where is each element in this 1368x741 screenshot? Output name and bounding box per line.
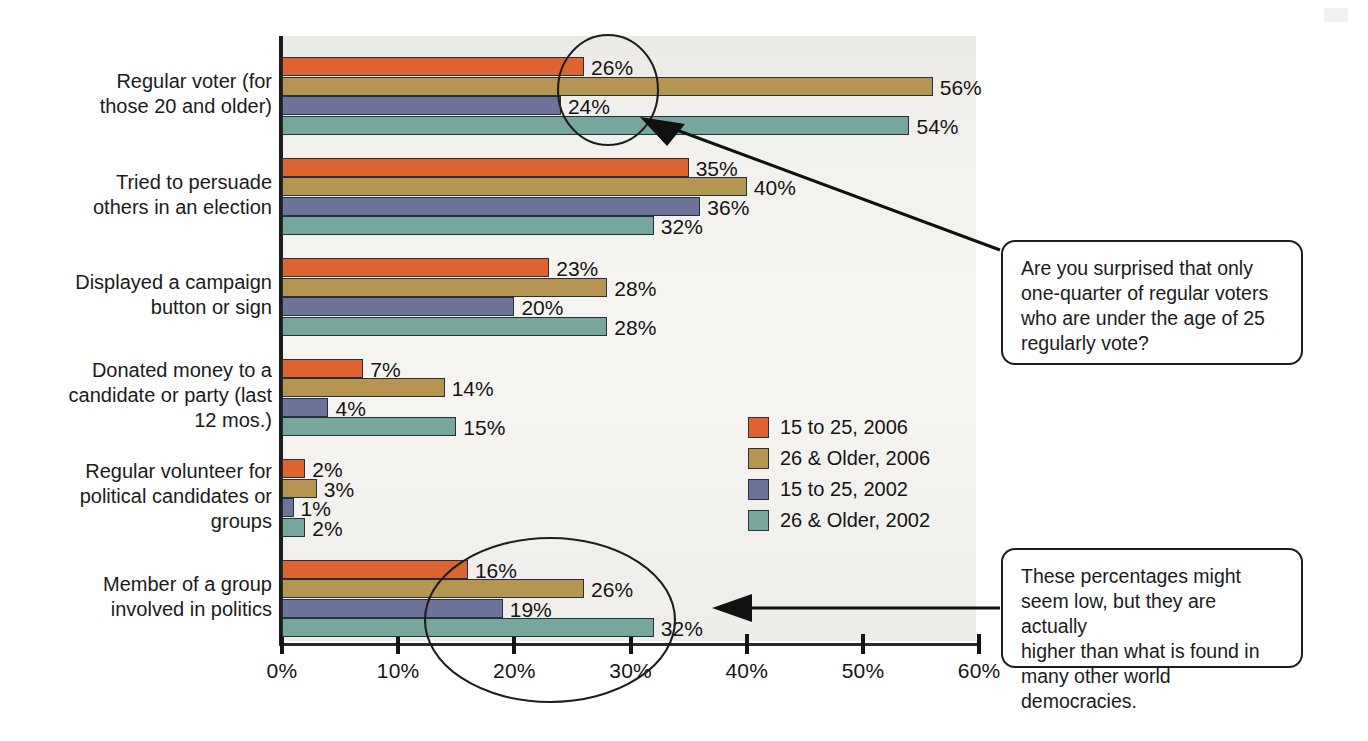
category-label: Donated money to acandidate or party (la… [14, 358, 272, 433]
x-axis-tick-label: 20% [479, 659, 549, 683]
bar-value-label: 28% [614, 318, 656, 337]
bar [282, 479, 317, 498]
bar-value-label: 54% [916, 117, 958, 136]
callout-2-line-1: seem low, but they are actually [1021, 589, 1285, 639]
bar-value-label: 32% [661, 217, 703, 236]
legend-swatch-icon [748, 448, 769, 469]
category-label-line: 12 mos.) [14, 408, 272, 433]
bar-value-label: 3% [324, 480, 354, 499]
legend-swatch-icon [748, 479, 769, 500]
bar-value-label: 14% [452, 379, 494, 398]
page-speckle [1324, 8, 1348, 22]
callout-1-line-3: regularly vote? [1021, 331, 1285, 356]
bar [282, 116, 909, 135]
x-axis-tick-label: 0% [247, 659, 317, 683]
bar [282, 177, 747, 196]
bar [282, 518, 305, 537]
x-axis-tick-label: 40% [712, 659, 782, 683]
legend-item: 15 to 25, 2006 [748, 412, 930, 443]
legend-item: 26 & Older, 2006 [748, 443, 930, 474]
bar-value-label: 26% [591, 58, 633, 77]
category-label-line: Displayed a campaign [14, 270, 272, 295]
bar-value-label: 24% [568, 97, 610, 116]
bar [282, 158, 689, 177]
category-label: Regular voter (forthose 20 and older) [14, 69, 272, 119]
x-axis-tick [977, 634, 981, 654]
callout-2-line-3: many other world democracies. [1021, 664, 1285, 714]
legend-label: 26 & Older, 2002 [780, 509, 930, 532]
category-label: Tried to persuadeothers in an election [14, 170, 272, 220]
bar [282, 278, 607, 297]
category-label-line: Regular volunteer for [14, 459, 272, 484]
legend-label: 15 to 25, 2002 [780, 478, 908, 501]
chart-page: 0%10%20%30%40%50%60%Regular voter (forth… [0, 0, 1368, 741]
category-label: Displayed a campaignbutton or sign [14, 270, 272, 320]
bar [282, 618, 654, 637]
bar [282, 216, 654, 235]
callout-1-line-0: Are you surprised that only [1021, 256, 1285, 281]
bar-value-label: 56% [940, 78, 982, 97]
callout-box-voters: Are you surprised that only one-quarter … [1001, 240, 1303, 365]
chart-legend: 15 to 25, 200626 & Older, 200615 to 25, … [748, 412, 930, 536]
x-axis-tick-label: 50% [828, 659, 898, 683]
bar-value-label: 40% [754, 178, 796, 197]
bar-value-label: 26% [591, 580, 633, 599]
bar [282, 359, 363, 378]
callout-2-line-2: higher than what is found in [1021, 639, 1285, 664]
legend-item: 26 & Older, 2002 [748, 505, 930, 536]
category-label-line: button or sign [14, 295, 272, 320]
legend-item: 15 to 25, 2002 [748, 474, 930, 505]
bar-value-label: 20% [521, 298, 563, 317]
bar [282, 560, 468, 579]
callout-1-line-2: who are under the age of 25 [1021, 306, 1285, 331]
bar [282, 297, 514, 316]
category-label: Member of a groupinvolved in politics [14, 572, 272, 622]
bar-value-label: 7% [370, 360, 400, 379]
category-label: Regular volunteer forpolitical candidate… [14, 459, 272, 534]
bar [282, 579, 584, 598]
legend-label: 26 & Older, 2006 [780, 447, 930, 470]
bar-value-label: 36% [707, 198, 749, 217]
bar-value-label: 1% [301, 499, 331, 518]
x-axis-tick [745, 634, 749, 654]
x-axis-tick-label: 10% [363, 659, 433, 683]
bar-value-label: 2% [312, 460, 342, 479]
category-label-line: involved in politics [14, 597, 272, 622]
category-label-line: Member of a group [14, 572, 272, 597]
bar [282, 417, 456, 436]
bar-value-label: 23% [556, 259, 598, 278]
bar-value-label: 35% [696, 159, 738, 178]
legend-swatch-icon [748, 417, 769, 438]
bar-value-label: 4% [335, 399, 365, 418]
category-label-line: candidate or party (last [14, 383, 272, 408]
bar-value-label: 15% [463, 418, 505, 437]
bar-value-label: 2% [312, 519, 342, 538]
bar [282, 77, 933, 96]
bar [282, 96, 561, 115]
bar [282, 459, 305, 478]
category-label-line: political candidates or [14, 484, 272, 509]
bar-value-label: 28% [614, 279, 656, 298]
x-axis-tick [861, 634, 865, 654]
bar [282, 258, 549, 277]
callout-1-line-1: one-quarter of regular voters [1021, 281, 1285, 306]
bar [282, 57, 584, 76]
bar-value-label: 19% [510, 600, 552, 619]
bar [282, 498, 294, 517]
category-label-line: others in an election [14, 195, 272, 220]
callout-2-line-0: These percentages might [1021, 564, 1285, 589]
bar [282, 398, 328, 417]
category-label-line: Donated money to a [14, 358, 272, 383]
bar [282, 599, 503, 618]
category-label-line: groups [14, 509, 272, 534]
bar [282, 317, 607, 336]
category-label-line: those 20 and older) [14, 94, 272, 119]
bar-value-label: 32% [661, 619, 703, 638]
x-axis-tick-label: 30% [596, 659, 666, 683]
category-label-line: Regular voter (for [14, 69, 272, 94]
bar [282, 378, 445, 397]
category-label-line: Tried to persuade [14, 170, 272, 195]
legend-swatch-icon [748, 510, 769, 531]
bar [282, 197, 700, 216]
bar-value-label: 16% [475, 561, 517, 580]
